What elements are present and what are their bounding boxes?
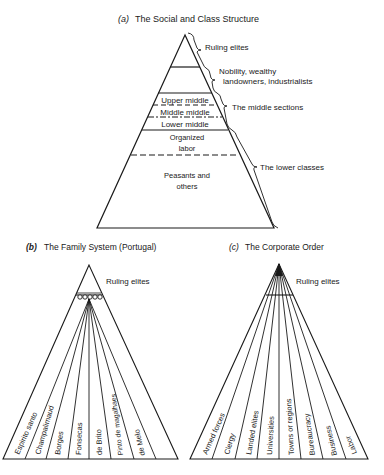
panel-c-title: The Corporate Order xyxy=(245,242,324,252)
layer-peasants-2: others xyxy=(177,182,198,191)
panel-b-title-letter: (b) xyxy=(26,242,37,252)
bracket-label-nobility-2: landowners, industrialists xyxy=(223,77,312,86)
bracket-label-ruling-elites: Ruling elites xyxy=(205,43,249,52)
sector-universities: Universities xyxy=(265,416,276,455)
family-fonsecas: Fonsecas xyxy=(74,422,84,455)
layer-lower-middle: Lower middle xyxy=(161,120,209,129)
sector-clergy: Clergy xyxy=(222,432,237,456)
brace-lower-classes xyxy=(232,130,278,228)
panel-b-title: The Family System (Portugal) xyxy=(44,242,157,252)
layer-peasants-1: Peasants and xyxy=(164,171,210,180)
layer-organized-labor-2: labor xyxy=(179,144,196,153)
brace-ruling-elites xyxy=(188,33,206,68)
family-circles xyxy=(78,295,102,299)
brace-middle-sections xyxy=(217,93,232,130)
bracket-label-nobility-1: Nobility, wealthy xyxy=(219,67,276,76)
sector-bureaucracy: Bureaucracy xyxy=(302,413,317,456)
bracket-label-middle-sections: The middle sections xyxy=(232,103,303,112)
panel-c-title-letter: (c) xyxy=(229,242,239,252)
family-borges: Borges xyxy=(53,430,65,455)
sector-labor: Labor xyxy=(343,434,359,456)
layer-middle-middle: Middle middle xyxy=(160,108,210,117)
panel-c: (c) The Corporate Order Ruling elites Ar… xyxy=(190,242,368,459)
sector-towns-or-regions: Towns or regions xyxy=(284,398,296,455)
family-apex-label: Ruling elites xyxy=(106,277,150,286)
class-pyramid xyxy=(97,35,274,228)
panel-b: (b) The Family System (Portugal) Ruling … xyxy=(3,242,178,459)
corporate-apex-label: Ruling elites xyxy=(296,277,340,286)
panel-a-title: The Social and Class Structure xyxy=(135,14,259,24)
brace-nobility xyxy=(206,68,217,93)
panel-a: (a) The Social and Class Structure Upper… xyxy=(97,14,324,228)
panel-a-title-letter: (a) xyxy=(118,14,129,24)
bracket-label-lower-classes: The lower classes xyxy=(260,163,324,172)
family-pinto-de-magalhaes: Pinto de magalhaes xyxy=(109,393,125,456)
layer-upper-middle: Upper middle xyxy=(161,96,209,105)
sector-business: Business xyxy=(323,425,339,457)
layer-organized-labor-1: Organized xyxy=(170,133,205,142)
diagram-canvas: (a) The Social and Class Structure Upper… xyxy=(0,0,384,475)
family-de-brito: de Brito xyxy=(94,429,104,455)
